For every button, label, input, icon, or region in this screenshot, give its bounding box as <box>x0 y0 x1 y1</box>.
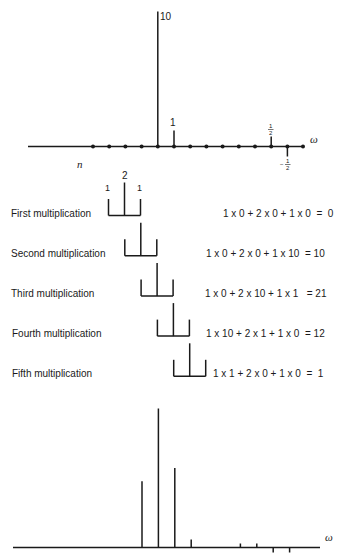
input-sample-dot <box>221 145 225 149</box>
kernel-glyph <box>109 183 141 216</box>
peak-value-label: 10 <box>160 11 172 22</box>
input-sample-dot <box>107 145 111 149</box>
input-sample-dot <box>91 145 95 149</box>
output-stems <box>142 409 290 553</box>
kernel-weight-center: 2 <box>122 170 128 181</box>
step-equation: 1 x 0 + 2 x 10 + 1 x 1 = 21 <box>205 288 327 299</box>
input-axis-arrow <box>301 145 305 149</box>
half-value-label: 1 2 <box>268 123 274 136</box>
step-label: Fifth multiplication <box>12 368 92 379</box>
input-stems <box>91 12 289 157</box>
output-axis-label: ω <box>325 531 333 543</box>
input-sample-dot <box>237 145 241 149</box>
multiplication-steps: First multiplication 1 x 0 + 2 x 0 + 1 x… <box>11 183 334 380</box>
kernel-glyph <box>141 263 173 296</box>
step-equation: 1 x 0 + 2 x 0 + 1 x 10 = 10 <box>206 248 325 259</box>
input-sample-dot <box>253 145 257 149</box>
kernel-glyph <box>125 223 157 256</box>
kernel-weight-right: 1 <box>137 183 142 193</box>
input-sample-dot <box>123 145 127 149</box>
input-sample-dot <box>188 145 192 149</box>
input-signal-plot: ω n 10 1 1 2 − 1 2 <box>28 11 318 171</box>
step-equation: 1 x 0 + 2 x 0 + 1 x 0 = 0 <box>223 208 334 219</box>
svg-text:2: 2 <box>269 130 273 136</box>
step-label: First multiplication <box>11 208 91 219</box>
step-row: Fourth multiplication 1 x 10 + 2 x 1 + 1… <box>12 303 325 339</box>
step-row: Second multiplication 1 x 0 + 2 x 0 + 1 … <box>11 223 325 259</box>
output-signal-plot: ω <box>13 409 333 553</box>
step-row: Fifth multiplication 1 x 1 + 2 x 0 + 1 x… <box>12 343 324 379</box>
neg-half-value-label: − 1 2 <box>280 158 291 171</box>
svg-text:1: 1 <box>286 158 290 164</box>
input-sample-dot <box>204 145 208 149</box>
index-label-n: n <box>77 158 83 170</box>
step-equation: 1 x 1 + 2 x 0 + 1 x 0 = 1 <box>213 368 324 379</box>
kernel-weight-left: 1 <box>105 183 110 193</box>
input-axis-label: ω <box>310 133 318 145</box>
kernel-weight-labels: 1 2 1 <box>105 170 142 193</box>
svg-text:1: 1 <box>269 123 273 129</box>
step-label: Second multiplication <box>11 248 106 259</box>
svg-text:−: − <box>280 161 284 167</box>
kernel-glyph <box>174 343 206 376</box>
convolution-diagram: ω n 10 1 1 2 − 1 2 1 2 1 First multiplic… <box>0 0 346 555</box>
step-label: Third multiplication <box>11 288 94 299</box>
one-value-label: 1 <box>170 117 176 128</box>
step-equation: 1 x 10 + 2 x 1 + 1 x 0 = 12 <box>206 328 325 339</box>
step-row: First multiplication 1 x 0 + 2 x 0 + 1 x… <box>11 183 334 220</box>
step-row: Third multiplication 1 x 0 + 2 x 10 + 1 … <box>11 263 327 299</box>
input-sample-dot <box>140 145 144 149</box>
step-label: Fourth multiplication <box>12 328 101 339</box>
svg-text:2: 2 <box>286 165 290 171</box>
kernel-glyph <box>157 303 189 336</box>
